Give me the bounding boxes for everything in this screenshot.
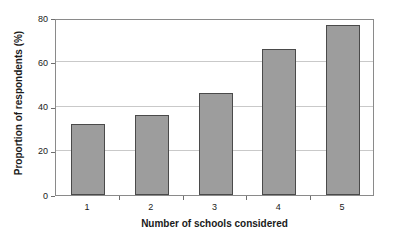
bar [262,49,296,195]
x-tick-label: 1 [72,203,102,212]
plot-area [55,19,374,196]
x-tick-mark [246,196,247,200]
plot-inner [56,20,373,195]
x-axis-title: Number of schools considered [55,218,374,229]
bar [326,25,360,195]
bar-chart-figure: Proportion of respondents (%) 020406080 … [0,0,396,245]
x-tick-mark [119,196,120,200]
y-tick-mark [51,196,55,197]
y-tick-label: 80 [18,15,48,24]
x-tick-label: 3 [200,203,230,212]
x-tick-label: 2 [136,203,166,212]
x-tick-label: 4 [263,203,293,212]
y-tick-label: 20 [18,147,48,156]
y-tick-label: 40 [18,103,48,112]
bar [199,93,233,195]
y-tick-label: 0 [18,192,48,201]
x-tick-mark [310,196,311,200]
bar [71,124,105,195]
x-tick-label: 5 [327,203,357,212]
x-tick-mark [183,196,184,200]
bar [135,115,169,195]
y-tick-label: 60 [18,59,48,68]
